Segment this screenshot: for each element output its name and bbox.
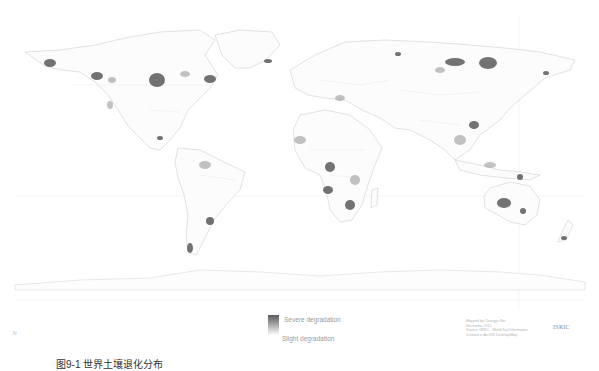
australia	[484, 182, 540, 225]
north-america	[25, 30, 218, 150]
antarctica	[15, 270, 585, 290]
madagascar	[371, 188, 378, 208]
coastlines	[15, 30, 585, 290]
map-legend: Severe degradation Slight degradation	[268, 315, 378, 345]
legend-slight-label: Slight degradation	[282, 335, 334, 342]
indonesia	[455, 160, 540, 180]
africa	[293, 110, 382, 222]
map-credits: Mapped by Changyu Bai November 2015 Sour…	[466, 319, 527, 337]
figure-caption: 图9-1 世界土壤退化分布	[56, 356, 163, 371]
legend-severe-label: Severe degradation	[284, 316, 341, 323]
credit-line: Created in ArcGIS Desktop/Map	[466, 333, 527, 338]
credit-line: Source: ISRIC - World Soil Information	[466, 328, 527, 333]
world-map	[0, 0, 599, 310]
isric-logo: ISRIC	[553, 324, 570, 330]
legend-gradient-swatch	[268, 315, 279, 335]
north-arrow-icon: N	[13, 330, 17, 336]
